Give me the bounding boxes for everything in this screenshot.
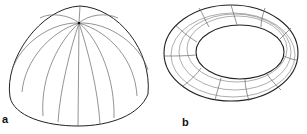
hemisphere-panel: a bbox=[0, 0, 155, 134]
panel-label-a: a bbox=[2, 113, 8, 125]
panel-label-b: b bbox=[182, 116, 189, 128]
torus-panel: b bbox=[155, 0, 307, 134]
torus-drawing bbox=[155, 0, 307, 134]
hemisphere-drawing bbox=[0, 0, 155, 134]
